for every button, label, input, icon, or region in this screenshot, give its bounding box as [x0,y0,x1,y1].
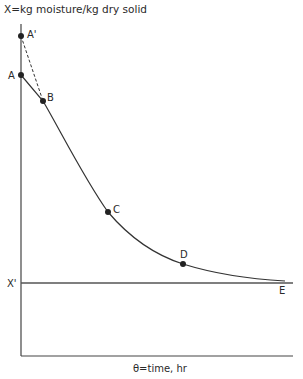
label-d: D [180,249,188,260]
drying-curve-diagram: X=kg moisture/kg dry solid X' A' A B C D… [0,0,303,379]
label-a-prime: A' [27,29,37,40]
dashed-extrapolation [21,36,43,101]
label-a: A [8,70,15,81]
label-e: E [279,285,285,296]
x-axis-label: θ=time, hr [133,363,188,374]
point-c [105,209,111,215]
label-b: B [47,92,54,103]
point-a [18,72,24,78]
drying-curve [21,75,285,281]
y-axis-label: X=kg moisture/kg dry solid [4,3,147,15]
point-b [40,98,46,104]
point-d [180,261,186,267]
point-a-prime [18,33,24,39]
label-c: C [113,204,120,215]
equilibrium-label: X' [7,278,17,289]
